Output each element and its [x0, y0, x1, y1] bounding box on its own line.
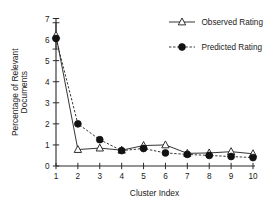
- x-axis-tick-label: 6: [163, 172, 168, 181]
- x-axis-tick-label: 2: [76, 172, 81, 181]
- axis-titles: Cluster IndexPercentage of RelevantDocum…: [10, 48, 180, 198]
- x-axis-tick-label: 5: [141, 172, 146, 181]
- y-axis-tick-label: 5: [45, 57, 50, 66]
- x-axis-tick-label: 3: [97, 172, 102, 181]
- chart-figure: 01234567 12345678910 Observed RatingPred…: [0, 0, 273, 204]
- data-point-marker: [206, 152, 213, 159]
- x-axis-tick-label: 1: [54, 172, 59, 181]
- data-point-marker: [178, 18, 185, 25]
- y-axis-tick-label: 1: [45, 141, 50, 150]
- data-point-marker: [118, 147, 125, 154]
- y-axis-tick-label: 2: [45, 120, 50, 129]
- series-line: [56, 35, 253, 153]
- data-point-marker: [74, 120, 81, 127]
- x-axis-tick-label: 7: [185, 172, 190, 181]
- x-axis-title: Cluster Index: [130, 188, 180, 198]
- series-line: [56, 39, 253, 158]
- y-axis-tick-label: 0: [45, 162, 50, 171]
- data-point-marker: [53, 35, 60, 42]
- legend-item: Predicted Rating: [169, 43, 262, 52]
- x-axis-tick-label: 4: [119, 172, 124, 181]
- y-axis-tick-label: 3: [45, 99, 50, 108]
- x-axis: 12345678910: [54, 163, 258, 181]
- data-point-marker: [179, 44, 186, 51]
- data-point-marker: [228, 153, 235, 160]
- data-point-marker: [162, 150, 169, 157]
- data-point-marker: [140, 145, 147, 152]
- y-axis-tick-label: 7: [45, 15, 50, 24]
- data-series: [53, 35, 257, 161]
- x-axis-tick-label: 8: [207, 172, 212, 181]
- data-point-marker: [184, 151, 191, 158]
- data-point-marker: [162, 141, 169, 148]
- x-axis-tick-label: 9: [229, 172, 234, 181]
- y-axis-tick-label: 4: [45, 78, 50, 87]
- chart-legend: Observed RatingPredicted Rating: [169, 18, 263, 52]
- legend-item-label: Observed Rating: [202, 18, 264, 27]
- chart-plot-area: 01234567 12345678910 Observed RatingPred…: [0, 0, 273, 204]
- data-point-marker: [96, 136, 103, 143]
- y-axis-tick-label: 6: [45, 36, 50, 45]
- y-axis-title-line: Documents: [19, 71, 29, 113]
- data-point-marker: [250, 154, 257, 161]
- y-axis-title: Percentage of RelevantDocuments: [10, 48, 29, 136]
- data-point-marker: [96, 144, 103, 151]
- legend-item: Observed Rating: [169, 18, 263, 27]
- legend-item-label: Predicted Rating: [202, 43, 263, 52]
- x-axis-tick-label: 10: [248, 172, 258, 181]
